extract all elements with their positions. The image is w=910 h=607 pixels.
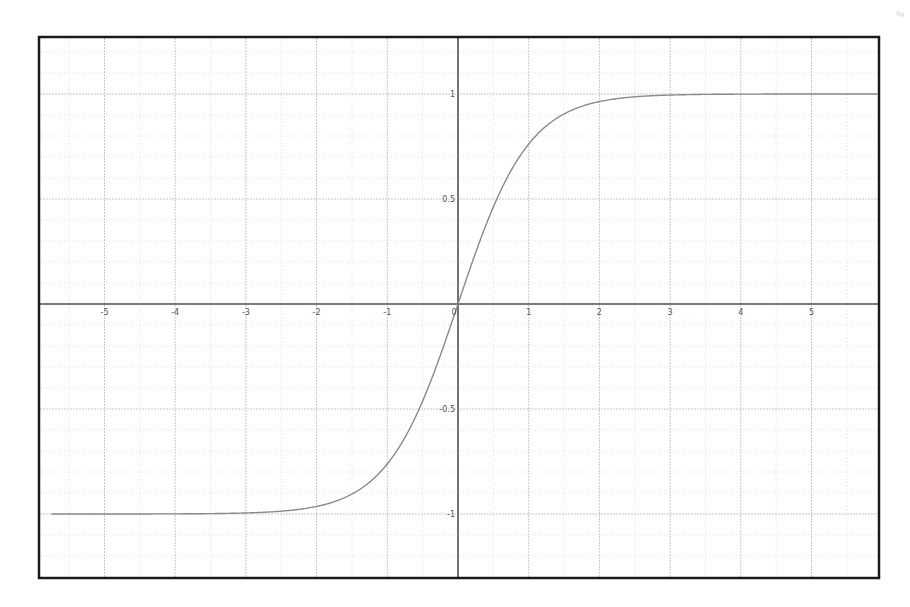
x-tick-label: -2 [313, 308, 321, 317]
y-tick-label: 0.5 [442, 195, 455, 204]
x-tick-label: 3 [668, 308, 673, 317]
axes [40, 38, 878, 577]
x-tick-label: -3 [242, 308, 250, 317]
corner-mark: fig [896, 10, 904, 17]
x-tick-label: 1 [526, 308, 531, 317]
y-tick-label: -0.5 [439, 405, 455, 414]
plot-frame [39, 37, 879, 578]
x-tick-label: 5 [809, 308, 814, 317]
x-tick-label: -1 [383, 308, 391, 317]
x-tick-label: 2 [597, 308, 602, 317]
y-tick-label: -1 [447, 510, 455, 519]
x-tick-label: 0 [451, 308, 456, 317]
x-tick-label: -5 [101, 308, 109, 317]
x-tick-label: -4 [171, 308, 179, 317]
x-tick-label: 4 [738, 308, 743, 317]
y-tick-label: 1 [450, 90, 455, 99]
minor-grid [40, 38, 878, 577]
function-plot: -5-4-3-2-1012345 -1-0.50.51 [0, 0, 910, 607]
major-grid [40, 38, 878, 577]
